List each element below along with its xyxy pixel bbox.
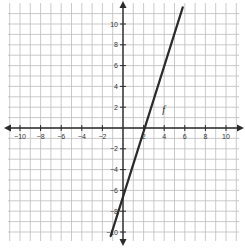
x-tick-label: −8: [37, 133, 45, 140]
x-tick-label: 8: [203, 133, 207, 140]
x-tick-label: 4: [162, 133, 166, 140]
y-tick-label: 10: [110, 21, 118, 28]
x-tick-label: −6: [57, 133, 65, 140]
axes: [4, 1, 244, 246]
y-tick-label: 2: [114, 104, 118, 111]
y-axis-down-arrow-icon: [120, 239, 127, 246]
function-line: [111, 7, 183, 236]
x-tick-label: −2: [98, 133, 106, 140]
y-tick-label: 6: [114, 62, 118, 69]
x-tick-label: −10: [14, 133, 26, 140]
x-tick-label: 6: [183, 133, 187, 140]
line-f: [111, 7, 183, 236]
function-label: f: [162, 104, 166, 115]
y-axis-up-arrow-icon: [120, 1, 127, 8]
x-tick-label: −4: [78, 133, 86, 140]
y-tick-label: 4: [114, 83, 118, 90]
y-tick-label: −4: [110, 166, 118, 173]
y-tick-label: −6: [110, 187, 118, 194]
x-axis-left-arrow-icon: [4, 125, 11, 132]
x-tick-label: 10: [222, 133, 230, 140]
y-tick-label: 8: [114, 41, 118, 48]
y-tick-label: −2: [110, 145, 118, 152]
x-axis-right-arrow-icon: [237, 125, 244, 132]
coordinate-plane: −10−8−6−4−2246810−10−8−6−4−2246810 f: [0, 0, 245, 250]
